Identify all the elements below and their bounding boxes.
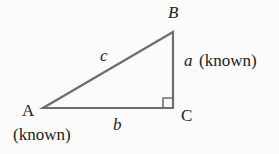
vertex-label-a: A [22,102,34,119]
vertex-a-known-note: (known) [13,126,71,143]
right-triangle-diagram: B c a (known) A C b (known) [0,0,279,154]
side-label-a: a [184,52,193,69]
triangle-abc [43,32,173,108]
side-a-known-note: (known) [199,52,257,69]
side-label-c: c [100,47,108,64]
side-label-b: b [113,116,122,133]
vertex-label-b: B [168,4,178,21]
vertex-label-c: C [181,107,192,124]
right-angle-marker [163,98,173,108]
